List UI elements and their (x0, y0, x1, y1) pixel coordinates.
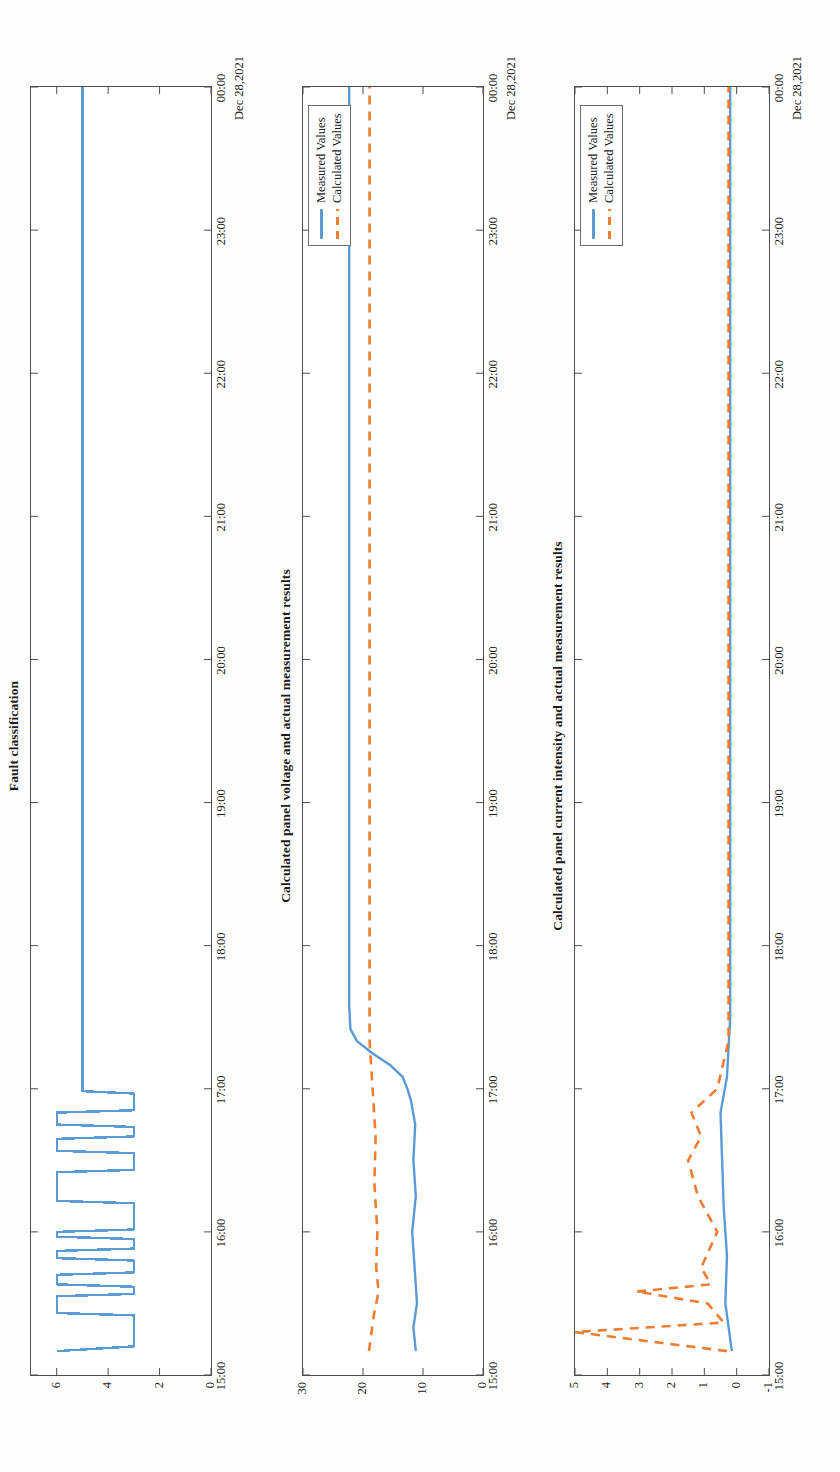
x-axis-tick-label: 20:00 (486, 646, 501, 674)
legend-label: Calculated Values (330, 113, 345, 203)
y-axis-tick-label: 2 (151, 1382, 166, 1388)
x-axis-date-caption: Dec 28,2021 (504, 56, 519, 120)
x-axis-tick-label: 18:00 (214, 932, 229, 960)
y-axis-tick-label: 6 (48, 1382, 63, 1388)
solid-line-icon (316, 209, 327, 239)
page-title: Fault classification (6, 0, 22, 1472)
legend-label: Calculated Values (602, 113, 617, 203)
x-axis-tick-label: 16:00 (214, 1219, 229, 1247)
x-axis-ticks: 15:0016:0017:0018:0019:0020:0021:0022:00… (486, 86, 504, 1376)
x-axis-ticks: 15:0016:0017:0018:0019:0020:0021:0022:00… (772, 86, 790, 1376)
y-axis-tick-label: 0 (728, 1382, 743, 1388)
legend-label: Measured Values (586, 117, 601, 203)
chart-title-panel-current: Calculated panel current intensity and a… (550, 0, 566, 1472)
legend-item-calculated-values: Calculated Values (329, 113, 345, 239)
x-axis-tick-label: 21:00 (214, 503, 229, 531)
y-axis-ticks: -1012345 (574, 1382, 770, 1442)
x-axis-tick-label: 15:00 (486, 1362, 501, 1390)
legend-item-measured-values: Measured Values (313, 113, 329, 239)
x-axis-tick-label: 23:00 (772, 217, 787, 245)
y-axis-tick-label: 3 (631, 1382, 646, 1388)
x-axis-tick-label: 16:00 (772, 1219, 787, 1247)
x-axis-ticks: 15:0016:0017:0018:0019:0020:0021:0022:00… (214, 86, 232, 1376)
plot-area-panel-current (574, 86, 770, 1376)
x-axis-tick-label: 15:00 (214, 1362, 229, 1390)
x-axis-tick-label: 22:00 (772, 360, 787, 388)
x-axis-tick-label: 15:00 (772, 1362, 787, 1390)
x-axis-tick-label: 22:00 (214, 360, 229, 388)
x-axis-tick-label: 16:00 (486, 1219, 501, 1247)
x-axis-tick-label: 23:00 (214, 217, 229, 245)
y-axis-tick-label: 1 (696, 1382, 711, 1388)
x-axis-tick-label: 17:00 (214, 1076, 229, 1104)
solid-line-icon (588, 209, 599, 239)
y-axis-tick-label: 4 (599, 1382, 614, 1388)
x-axis-tick-label: 18:00 (486, 932, 501, 960)
chart-panel-fault-classification: Fault classification 0246 15:0016:0017:0… (0, 0, 280, 1472)
x-axis-date-caption: Dec 28,2021 (790, 56, 805, 120)
legend-label: Measured Values (314, 117, 329, 203)
y-axis-tick-label: 2 (664, 1382, 679, 1388)
chart-panel-panel-voltage: Calculated panel voltage and actual meas… (272, 0, 552, 1472)
x-axis-tick-label: 00:00 (486, 74, 501, 102)
x-axis-tick-label: 20:00 (772, 646, 787, 674)
x-axis-tick-label: 00:00 (214, 74, 229, 102)
chart-legend: Measured ValuesCalculated Values (580, 105, 623, 246)
legend-item-calculated-values: Calculated Values (601, 113, 617, 239)
y-axis-ticks: 0246 (30, 1382, 212, 1442)
chart-panel-panel-current: Calculated panel current intensity and a… (544, 0, 840, 1472)
chart-title-panel-voltage: Calculated panel voltage and actual meas… (278, 0, 294, 1472)
x-axis-tick-label: 17:00 (486, 1076, 501, 1104)
x-axis-tick-label: 17:00 (772, 1076, 787, 1104)
plot-area-fault-classification (30, 86, 212, 1376)
y-axis-tick-label: 20 (355, 1382, 370, 1395)
x-axis-tick-label: 22:00 (486, 360, 501, 388)
x-axis-tick-label: 21:00 (486, 503, 501, 531)
x-axis-tick-label: 21:00 (772, 503, 787, 531)
y-axis-tick-label: 10 (415, 1382, 430, 1395)
x-axis-tick-label: 20:00 (214, 646, 229, 674)
x-axis-tick-label: 19:00 (214, 789, 229, 817)
x-axis-date-caption: Dec 28,2021 (232, 56, 247, 120)
x-axis-tick-label: 18:00 (772, 932, 787, 960)
dashed-line-icon (604, 209, 615, 239)
y-axis-tick-label: 4 (100, 1382, 115, 1388)
plot-area-panel-voltage (302, 86, 484, 1376)
x-axis-tick-label: 00:00 (772, 74, 787, 102)
legend-item-measured-values: Measured Values (585, 113, 601, 239)
dashed-line-icon (332, 209, 343, 239)
y-axis-tick-label: 5 (567, 1382, 582, 1388)
x-axis-tick-label: 23:00 (486, 217, 501, 245)
y-axis-tick-label: 30 (295, 1382, 310, 1395)
x-axis-tick-label: 19:00 (772, 789, 787, 817)
y-axis-ticks: 0102030 (302, 1382, 484, 1442)
x-axis-tick-label: 19:00 (486, 789, 501, 817)
chart-legend: Measured ValuesCalculated Values (308, 105, 351, 246)
